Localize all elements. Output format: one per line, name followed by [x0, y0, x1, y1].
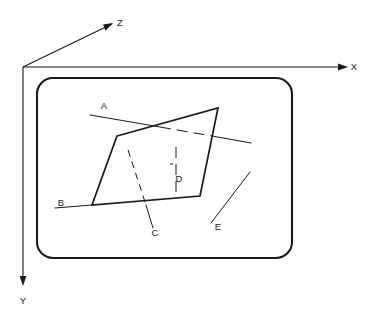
quadrilateral-plane — [92, 108, 218, 205]
line-b-label: B — [58, 197, 64, 208]
line-c: C — [128, 150, 159, 238]
diagram-root: Z X Y A — [0, 0, 370, 320]
line-d-label: D — [176, 173, 183, 184]
axis-y-arrowhead — [20, 276, 27, 286]
axis-x: X — [23, 61, 358, 72]
line-a-segment-exit — [212, 136, 251, 143]
line-e: E — [211, 172, 250, 232]
axis-z-line — [23, 24, 112, 67]
line-c-segment-hidden — [128, 150, 146, 205]
axis-x-arrowhead — [338, 64, 348, 71]
axis-group: Z X Y — [20, 17, 358, 306]
line-a-label: A — [101, 100, 108, 111]
line-a-segment-entry — [90, 115, 160, 127]
line-b: B — [55, 197, 92, 208]
axis-z-label: Z — [117, 17, 123, 28]
axis-y: Y — [20, 67, 27, 306]
line-c-label: C — [152, 227, 159, 238]
line-c-segment-visible — [146, 205, 153, 228]
line-e-label: E — [215, 221, 221, 232]
line-d: D — [170, 147, 183, 192]
axis-x-label: X — [351, 61, 358, 72]
diagram-canvas: Z X Y A — [0, 0, 370, 320]
plane-boundary-frame — [37, 78, 292, 258]
axis-z: Z — [23, 17, 123, 67]
axis-y-label: Y — [20, 295, 27, 306]
line-e-segment — [211, 172, 250, 223]
line-a-segment-hidden — [160, 127, 212, 136]
axis-z-arrowhead — [103, 23, 113, 31]
